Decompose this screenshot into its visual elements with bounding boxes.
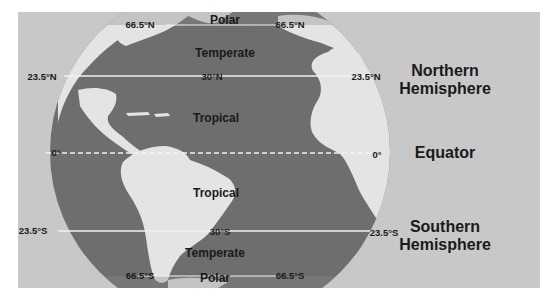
northern-hemisphere-line2: Hemisphere	[399, 80, 491, 98]
label-equator-left: 0°	[51, 148, 60, 158]
equator-label: Equator	[415, 144, 475, 162]
label-23-5n-right: 23.5°N	[351, 72, 380, 82]
southern-hemisphere-label: Southern Hemisphere	[399, 218, 491, 253]
southern-hemisphere-line2: Hemisphere	[399, 236, 491, 254]
label-66-5s-right: 66.5°S	[276, 271, 305, 281]
label-66-5n-left: 66.5°N	[125, 20, 154, 30]
zone-polar-south: Polar	[200, 272, 230, 284]
label-66-5s-left: 66.5°S	[126, 271, 155, 281]
northern-hemisphere-line1: Northern	[399, 62, 491, 80]
label-23-5n-left: 23.5°N	[27, 72, 56, 82]
zone-temperate-north: Temperate	[195, 47, 255, 59]
label-23-5s-right: 23.5°S	[370, 228, 399, 238]
zone-temperate-south: Temperate	[185, 247, 245, 259]
southern-hemisphere-line1: Southern	[399, 218, 491, 236]
climate-zones-diagram: 66.5°N 66.5°N 23.5°N 23.5°N 30°N 0° 0° 2…	[18, 12, 540, 288]
zone-polar-north: Polar	[210, 14, 240, 26]
label-66-5n-right: 66.5°N	[275, 20, 304, 30]
zone-tropical-north: Tropical	[193, 112, 239, 124]
label-equator-right: 0°	[372, 150, 381, 160]
zone-tropical-south: Tropical	[193, 187, 239, 199]
label-30n: 30°N	[201, 72, 222, 82]
label-23-5s-left: 23.5°S	[19, 226, 48, 236]
northern-hemisphere-label: Northern Hemisphere	[399, 62, 491, 97]
label-30s: 30°S	[210, 227, 231, 237]
